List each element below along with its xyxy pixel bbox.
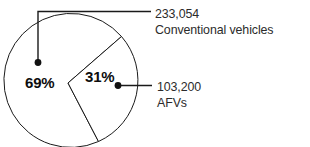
pie-chart-canvas: 69% 31% 233,054 Conventional vehicles 10… — [0, 0, 310, 147]
callout-value-afvs: 103,200 — [157, 80, 201, 94]
slice-percent-conventional: 69% — [25, 74, 54, 91]
leader-dot-conventional — [35, 59, 42, 66]
slice-percent-afvs: 31% — [85, 68, 114, 85]
pie-chart-figure: 69% 31% 233,054 Conventional vehicles 10… — [0, 0, 310, 147]
callout-name-conventional: Conventional vehicles — [155, 23, 273, 37]
callout-value-conventional: 233,054 — [155, 7, 199, 21]
callout-name-afvs: AFVs — [157, 96, 187, 110]
leader-dot-afvs — [115, 82, 122, 89]
